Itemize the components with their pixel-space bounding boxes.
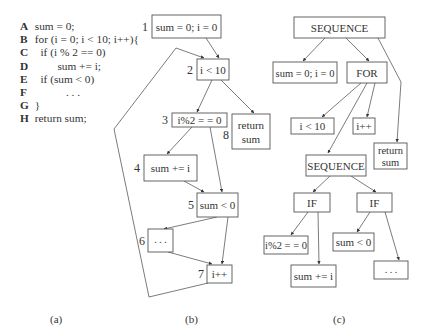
edge-4-5 — [184, 181, 204, 192]
node-text: sum < 0 — [336, 236, 372, 248]
node-text: i%2 = = 0 — [178, 114, 222, 126]
node-text: i < 10 — [200, 64, 226, 76]
edge-root-return — [378, 38, 401, 142]
node-text: i%2 = = 0 — [265, 240, 307, 251]
caption-a: (a) — [50, 313, 62, 325]
edge-6-7 — [168, 252, 212, 264]
control-flow-graph: 1 sum = 0; i = 0 2 i < 10 3 i%2 = = 0 4 … — [114, 15, 270, 297]
node-text: return — [238, 119, 265, 131]
cfg-node-2: 2 i < 10 — [187, 59, 229, 80]
diagram-canvas: 1 sum = 0; i = 0 2 i < 10 3 i%2 = = 0 4 … — [0, 0, 430, 332]
node-number: 3 — [162, 113, 168, 127]
node-text: return — [378, 145, 404, 156]
node-text: i++ — [212, 268, 227, 280]
edge-for-cond — [322, 83, 361, 117]
edge-5-7 — [222, 217, 228, 264]
cfg-node-6: 6 . . . — [139, 229, 173, 252]
edge-for-incr — [367, 83, 375, 117]
cfg-node-1: 1 sum = 0; i = 0 — [142, 15, 221, 38]
edge-root-init — [303, 38, 325, 61]
node-text: . . . — [385, 264, 398, 275]
node-number: 6 — [139, 234, 145, 248]
ast-node-if2-body: . . . — [374, 261, 408, 279]
ast-node-if1-cond: i%2 = = 0 — [264, 236, 308, 254]
abstract-syntax-tree: SEQUENCE sum = 0; i = 0 FOR i < 10 i++ r… — [264, 17, 408, 287]
edge-root-for — [346, 38, 369, 61]
node-number: 8 — [223, 128, 229, 142]
edge-if1-cond — [291, 212, 308, 235]
edge-2-3 — [197, 80, 212, 112]
node-text: IF — [307, 197, 317, 209]
cfg-node-7: 7 i++ — [198, 265, 232, 283]
node-text: IF — [370, 197, 380, 209]
node-number: 5 — [188, 198, 194, 212]
node-text: SEQUENCE — [311, 22, 369, 34]
edge-5-6 — [164, 217, 217, 229]
node-text: sum += i — [294, 270, 333, 282]
cfg-node-4: 4 sum += i — [134, 155, 197, 181]
node-text: FOR — [356, 67, 378, 79]
cfg-node-3: 3 i%2 = = 0 — [162, 113, 227, 127]
node-text: sum — [382, 157, 400, 168]
ast-node-return: return sum — [374, 143, 407, 169]
edge-3-5 — [210, 127, 222, 192]
node-text: sum = 0; i = 0 — [156, 21, 218, 33]
ast-node-if1-body: sum += i — [291, 265, 336, 287]
node-text: SEQUENCE — [307, 160, 365, 172]
edge-2-8 — [221, 80, 254, 113]
node-text: i++ — [356, 120, 371, 132]
edge-seq-if1 — [313, 176, 330, 192]
ast-node-root-sequence: SEQUENCE — [294, 17, 385, 38]
edge-if2-body — [385, 212, 399, 260]
edge-if1-body — [318, 212, 319, 264]
node-number: 7 — [198, 267, 204, 281]
ast-node-if2: IF — [357, 193, 392, 212]
node-text: . . . — [154, 234, 167, 245]
caption-c: (c) — [333, 313, 345, 325]
ast-node-init: sum = 0; i = 0 — [273, 62, 337, 83]
ast-node-incr: i++ — [353, 118, 375, 134]
node-number: 4 — [134, 161, 140, 175]
edge-3-4 — [167, 127, 192, 154]
edge-seq-if2 — [351, 176, 376, 192]
ast-node-sequence: SEQUENCE — [306, 155, 366, 176]
ast-node-cond: i < 10 — [291, 118, 334, 134]
node-text: sum — [242, 133, 261, 145]
caption-b: (b) — [185, 313, 198, 325]
node-text: i < 10 — [300, 120, 326, 132]
node-text: sum < 0 — [200, 199, 236, 211]
ast-node-if1: IF — [294, 193, 330, 212]
cfg-node-8: 8 return sum — [223, 114, 270, 149]
cfg-node-5: 5 sum < 0 — [188, 193, 238, 217]
edge-1-2 — [206, 38, 219, 58]
ast-node-if2-cond: sum < 0 — [333, 233, 374, 251]
ast-node-for: FOR — [347, 62, 387, 83]
node-number: 1 — [142, 20, 148, 34]
edge-if2-cond — [357, 212, 370, 232]
node-number: 2 — [187, 63, 193, 77]
node-text: sum = 0; i = 0 — [276, 68, 335, 79]
node-text: sum += i — [151, 162, 190, 174]
